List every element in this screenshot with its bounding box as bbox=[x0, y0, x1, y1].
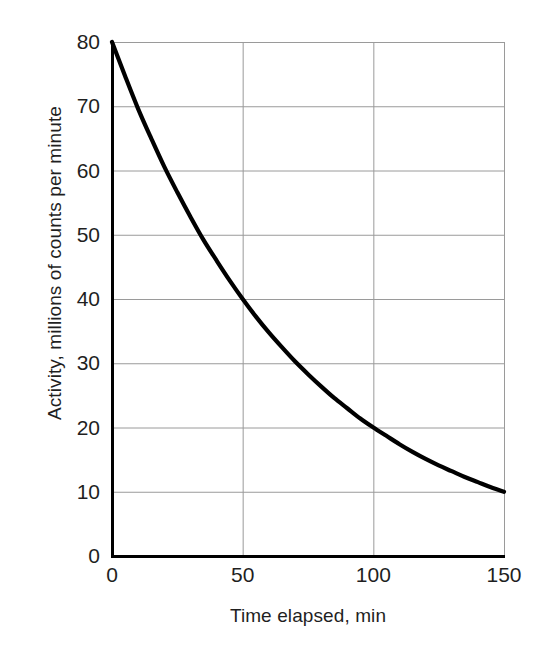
y-tick-label-20: 20 bbox=[77, 416, 100, 440]
y-tick-label-30: 30 bbox=[77, 351, 100, 375]
x-tick-label-150: 150 bbox=[486, 563, 521, 587]
y-tick-label-40: 40 bbox=[77, 287, 100, 311]
y-tick-label-80: 80 bbox=[77, 30, 100, 54]
y-tick-label-60: 60 bbox=[77, 159, 100, 183]
x-axis-title: Time elapsed, min bbox=[112, 605, 504, 627]
y-axis-title-text: Activity, millions of counts per minute bbox=[44, 6, 66, 520]
y-tick-label-70: 70 bbox=[77, 94, 100, 118]
y-tick-label-50: 50 bbox=[77, 223, 100, 247]
chart-figure: 01020304050607080 050100150 Activity, mi… bbox=[0, 0, 542, 655]
y-tick-label-10: 10 bbox=[77, 480, 100, 504]
x-tick-label-50: 50 bbox=[231, 563, 254, 587]
x-tick-label-100: 100 bbox=[356, 563, 391, 587]
y-tick-label-0: 0 bbox=[88, 544, 100, 568]
y-axis-title: Activity, millions of counts per minute bbox=[44, 0, 78, 520]
x-tick-label-0: 0 bbox=[106, 563, 118, 587]
